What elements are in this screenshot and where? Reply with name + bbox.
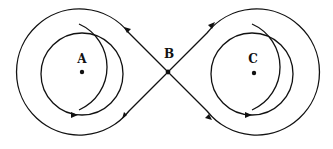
left-outer-loop [17,9,168,135]
right-inner-circle [211,33,293,115]
label-B: B [164,47,174,61]
arrow-icon-lower-left-line [122,112,127,119]
arrow-icon-upper-left-line [124,27,131,33]
point-C [252,71,256,75]
label-C: C [248,52,258,66]
left-partial-arc [79,24,107,110]
arrow-icon-right-inner-circle [245,112,252,118]
right-partial-arc [252,24,280,110]
arrow-icon-left-inner-circle [71,112,78,118]
point-B [166,70,171,75]
point-A [80,70,84,74]
figure-eight-diagram: A B C [0,0,333,149]
right-outer-loop [168,9,319,135]
label-A: A [76,52,87,66]
